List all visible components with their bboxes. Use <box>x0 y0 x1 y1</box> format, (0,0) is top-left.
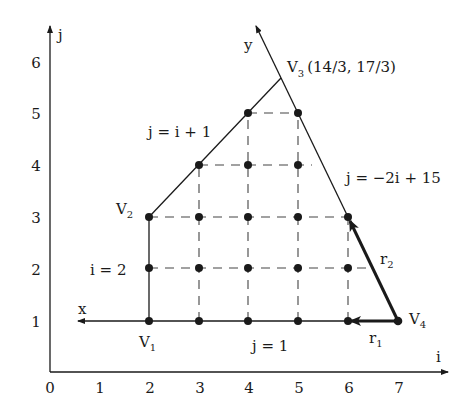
vertex-v2-label: V2 <box>115 200 133 220</box>
region-boundary <box>149 78 281 321</box>
y-tick: 6 <box>31 54 41 72</box>
x-tick: 7 <box>394 379 404 397</box>
vector-r1-label: r1 <box>369 329 383 349</box>
y-tick-labels: 1 2 3 4 5 6 <box>31 54 41 331</box>
x-tick: 1 <box>95 379 105 397</box>
dashed-grid <box>149 113 370 321</box>
line-label-i-eq-2: i = 2 <box>90 261 126 279</box>
y-tick: 3 <box>31 209 41 227</box>
lattice-diagram: i j 0 1 2 3 4 5 6 7 1 2 3 4 5 6 <box>0 0 474 411</box>
y-tick: 1 <box>31 313 41 331</box>
x-axis-label: x <box>78 300 87 318</box>
x-tick: 4 <box>244 379 254 397</box>
x-tick: 0 <box>45 379 55 397</box>
x-tick: 3 <box>195 379 205 397</box>
line-j-eq-i-plus-1 <box>149 78 281 217</box>
line-label-j-eq-i-plus-1: j = i + 1 <box>146 123 211 141</box>
y-axis-label: y <box>243 36 253 54</box>
y-tick: 2 <box>31 261 41 279</box>
vector-r2 <box>350 221 398 321</box>
x-tick: 2 <box>145 379 155 397</box>
vertex-v4-label: V4 <box>408 310 426 330</box>
y-tick: 5 <box>31 105 41 123</box>
y-axis-line <box>256 26 348 217</box>
j-axis-label: j <box>56 26 63 44</box>
line-label-j-eq-neg2i-plus-15: j = −2i + 15 <box>344 169 441 187</box>
x-tick: 6 <box>344 379 354 397</box>
x-tick-labels: 0 1 2 3 4 5 6 7 <box>45 379 404 397</box>
line-label-j-eq-1: j = 1 <box>250 337 288 355</box>
x-tick: 5 <box>294 379 304 397</box>
vector-r2-label: r2 <box>380 250 394 270</box>
i-axis-label: i <box>436 348 441 366</box>
vertex-v3-label: V3(14/3, 17/3) <box>286 58 396 79</box>
vertex-v1-label: V1 <box>138 333 156 353</box>
y-tick: 4 <box>31 157 41 175</box>
